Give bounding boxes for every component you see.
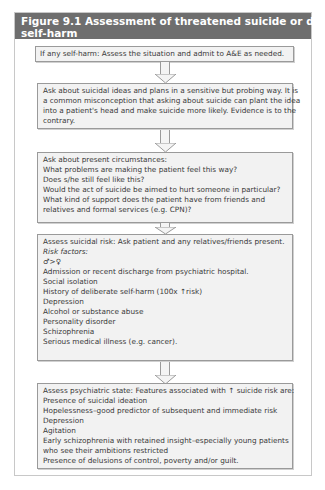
box-line: Early schizophrenia with retained insigh… bbox=[43, 436, 288, 446]
box-line: Admission or recent discharge from psych… bbox=[43, 267, 288, 277]
box-line: Agitation bbox=[43, 426, 288, 436]
down-arrow-icon bbox=[155, 130, 176, 152]
box-line: Depression bbox=[43, 416, 288, 426]
box-line: Presence of suicidal ideation bbox=[43, 396, 288, 406]
box-line: Hopelessness–good predictor of subsequen… bbox=[43, 406, 288, 416]
figure-title-line-2: self-harm bbox=[21, 27, 305, 39]
box-line: Depression bbox=[43, 297, 288, 307]
down-arrow-icon bbox=[155, 62, 176, 83]
box-line: contrary. bbox=[43, 116, 288, 126]
figure-frame: Figure 9.1 Assessment of threatened suic… bbox=[14, 12, 312, 476]
gender-risk-line: ♂>♀ bbox=[43, 257, 288, 267]
box-line: Ask about suicidal ideas and plans in a … bbox=[43, 86, 288, 96]
step-box-psychiatric-state: Assess psychiatric state: Features assoc… bbox=[37, 383, 293, 469]
box-line: a common misconception that asking about… bbox=[43, 96, 288, 106]
box-line: History of deliberate self-harm (100x ↑r… bbox=[43, 287, 288, 297]
box-line: If any self-harm: Assess the situation a… bbox=[40, 49, 289, 59]
box-heading: Assess suicidal risk: Ask patient and an… bbox=[43, 237, 288, 247]
box-line: into a patient's head and make suicide m… bbox=[43, 106, 288, 116]
box-line: Schizophrenia bbox=[43, 327, 288, 337]
step-box-present-circumstances: Ask about present circumstances: What pr… bbox=[37, 152, 293, 223]
box-line: Serious medical illness (e.g. cancer). bbox=[43, 337, 288, 347]
box-line: Would the act of suicide be aimed to hur… bbox=[43, 185, 288, 195]
box-line: Presence of delusions of control, povert… bbox=[43, 456, 288, 466]
box-line: What kind of support does the patient ha… bbox=[43, 195, 288, 205]
box-line: relatives and formal services (e.g. CPN)… bbox=[43, 205, 288, 215]
box-line: What problems are making the patient fee… bbox=[43, 165, 288, 175]
figure-title: Figure 9.1 Assessment of threatened suic… bbox=[15, 13, 311, 39]
step-box-self-harm: If any self-harm: Assess the situation a… bbox=[35, 46, 294, 62]
step-box-suicidal-ideas: Ask about suicidal ideas and plans in a … bbox=[37, 83, 293, 129]
figure-title-line-1: Figure 9.1 Assessment of threatened suic… bbox=[21, 15, 305, 27]
box-line: Ask about present circumstances: bbox=[43, 155, 288, 165]
box-line: Assess psychiatric state: Features assoc… bbox=[43, 386, 288, 396]
step-box-suicidal-risk: Assess suicidal risk: Ask patient and an… bbox=[37, 234, 293, 361]
box-line: Social isolation bbox=[43, 277, 288, 287]
box-line: Does s/he still feel like this? bbox=[43, 175, 288, 185]
risk-factors-label: Risk factors: bbox=[43, 247, 288, 257]
box-line: Personality disorder bbox=[43, 317, 288, 327]
box-line: who see their ambitions restricted bbox=[43, 446, 288, 456]
box-line: Alcohol or substance abuse bbox=[43, 307, 288, 317]
down-arrow-icon bbox=[155, 362, 176, 384]
